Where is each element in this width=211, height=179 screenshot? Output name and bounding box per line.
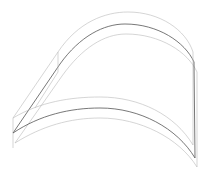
wireframe-canvas	[0, 0, 211, 179]
top-middle-arc	[60, 24, 194, 64]
bottom-outer-arc	[13, 97, 193, 145]
right-middle-edge	[194, 62, 195, 158]
left-middle-edge	[13, 64, 60, 133]
bottom-middle-arc	[13, 108, 195, 158]
top-outer-arc	[58, 12, 193, 52]
bottom-inner-arc	[15, 118, 197, 167]
left-outer-edge	[13, 52, 58, 118]
left-cross-edge	[35, 52, 58, 108]
left-inner-edge	[15, 76, 62, 143]
